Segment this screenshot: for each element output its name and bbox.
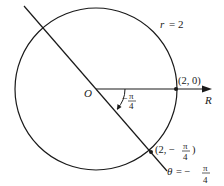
angle-label: − π 4 — [122, 91, 136, 111]
polar-diagram: r = 2 O R (2, 0) − π 4 (2, − π 4 ) θ = −… — [0, 0, 224, 186]
line-label: θ = − π 4 — [167, 163, 210, 185]
svg-text:4: 4 — [129, 101, 134, 111]
ray-label: R — [204, 94, 212, 106]
svg-text:4: 4 — [183, 152, 188, 162]
svg-text:θ: θ — [167, 165, 173, 177]
svg-text:π: π — [203, 163, 208, 173]
point-2-0 — [174, 87, 178, 91]
point-2-neg-pi-4-label: (2, − π 4 ) — [155, 141, 196, 162]
svg-text:π: π — [129, 91, 134, 101]
svg-text:−: − — [122, 93, 128, 104]
arrowhead-icon — [202, 86, 212, 93]
point-2-0-label: (2, 0) — [178, 75, 201, 87]
svg-text:4: 4 — [203, 175, 208, 185]
circle-label: r = 2 — [160, 18, 184, 30]
point-2-neg-pi-4 — [149, 150, 153, 154]
svg-text:π: π — [183, 141, 188, 151]
svg-text:): ) — [192, 144, 196, 156]
svg-text:(2, −: (2, − — [155, 144, 175, 156]
svg-text:= −: = − — [176, 166, 191, 177]
origin-label: O — [84, 87, 92, 99]
